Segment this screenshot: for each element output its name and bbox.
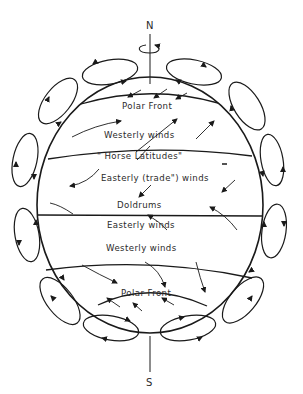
label-easterly-winds-south: Easterly winds xyxy=(107,220,175,230)
subtropical-south-line xyxy=(46,265,252,278)
north-pole-label: N xyxy=(146,20,153,31)
cell-4 xyxy=(222,76,273,136)
label-horse-latitudes: " Horse Latitudes" xyxy=(97,151,182,161)
label-trade-winds: Easterly (trade") winds xyxy=(101,173,209,183)
label-westerly-winds-south: Westerly winds xyxy=(106,243,177,253)
cell-2 xyxy=(164,54,224,89)
rotation-arrow-icon xyxy=(139,45,159,53)
circulation-diagram: N S Polar Front Westerly winds " Horse L… xyxy=(0,0,303,394)
label-doldrums: Doldrums xyxy=(117,200,162,210)
cell-3 xyxy=(31,72,85,131)
cell-12 xyxy=(158,311,217,344)
south-pole-label: S xyxy=(146,377,152,388)
cell-9 xyxy=(33,271,88,331)
cell-11 xyxy=(81,311,140,344)
label-polar-front-south: Polar Front xyxy=(121,288,171,298)
cell-5 xyxy=(8,131,43,189)
label-polar-front-north: Polar Front xyxy=(122,101,172,111)
cell-1 xyxy=(80,55,139,88)
label-westerly-winds-north: Westerly winds xyxy=(104,130,175,140)
